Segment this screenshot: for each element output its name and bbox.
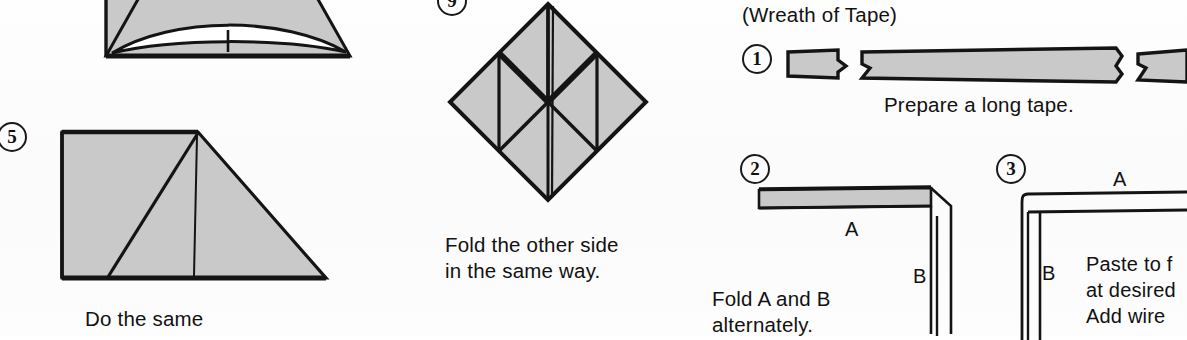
step-number-2: 2 [740,154,770,184]
figure-step4-cone [78,0,378,90]
figure-step9-diamond [448,2,698,207]
step-number-5: 5 [0,122,27,152]
caption-step3-line3: Add wire [1086,304,1165,328]
caption-step5: Do the same [85,306,203,331]
figure-step1-tape [786,44,1187,90]
step-number-1-value: 1 [752,48,762,70]
label-step3-a: A [1113,168,1126,191]
caption-step9-line2: in the same way. [445,258,601,283]
step-number-3: 3 [996,154,1026,184]
figure-step5-triangle [60,130,330,285]
label-step3-b: B [1042,262,1055,285]
caption-step1: Prepare a long tape. [884,92,1074,117]
caption-step9-line1: Fold the other side [445,232,619,257]
step-number-5-value: 5 [7,126,17,148]
caption-step2-line2: alternately. [712,312,813,337]
wreath-heading: (Wreath of Tape) [742,2,897,27]
step-number-3-value: 3 [1006,158,1016,180]
caption-step3-line2: at desired [1086,278,1176,302]
label-step2-b: B [913,265,926,288]
step-number-1: 1 [742,44,772,74]
step-number-2-value: 2 [750,158,760,180]
label-step2-a: A [845,218,858,241]
caption-step2-line1: Fold A and B [712,286,831,311]
caption-step3-line1: Paste to f [1086,252,1173,276]
